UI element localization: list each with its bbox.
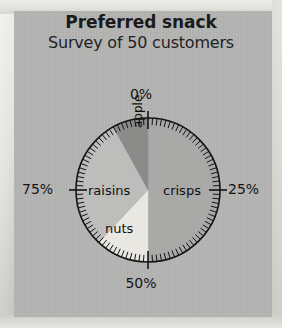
pie-chart: 0% 25% 50% 75% crisps nuts raisins apple: [0, 0, 282, 328]
scale-label-25: 25%: [228, 181, 259, 197]
slice-label-raisins: raisins: [88, 183, 130, 198]
photographed-page: Preferred snack Survey of 50 customers 0…: [0, 0, 282, 328]
scale-label-75: 75%: [22, 181, 53, 197]
slice-label-crisps: crisps: [163, 183, 201, 198]
slice-label-apple: apple: [131, 95, 145, 128]
scale-label-50: 50%: [0, 275, 282, 291]
slice-label-nuts: nuts: [105, 221, 133, 236]
